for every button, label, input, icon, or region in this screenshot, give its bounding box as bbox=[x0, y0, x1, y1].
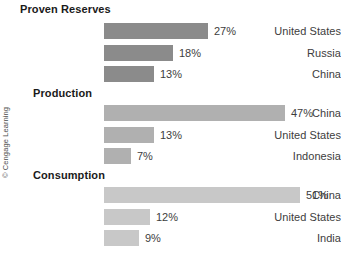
bar-wrap: 12% bbox=[104, 207, 178, 227]
bar-row-label: United States bbox=[241, 21, 341, 41]
bar-row: United States 13% bbox=[0, 125, 341, 145]
bar-row: China 13% bbox=[0, 64, 341, 84]
bar[interactable] bbox=[104, 105, 285, 121]
bar-wrap: 27% bbox=[104, 21, 236, 41]
bar-row-label: Russia bbox=[241, 43, 341, 63]
bar-wrap: 51% bbox=[104, 185, 328, 205]
bar[interactable] bbox=[104, 209, 150, 225]
bar-row-label: United States bbox=[241, 207, 341, 227]
bar-value-label: 27% bbox=[214, 23, 236, 39]
bar-row: China 47% bbox=[0, 103, 341, 123]
bar-wrap: 13% bbox=[104, 125, 182, 145]
bar[interactable] bbox=[104, 127, 154, 143]
bar-row-label: Indonesia bbox=[241, 146, 341, 166]
bar-value-label: 9% bbox=[145, 230, 161, 246]
bar-value-label: 13% bbox=[160, 66, 182, 82]
bar-value-label: 13% bbox=[160, 127, 182, 143]
bar-row: Russia 18% bbox=[0, 43, 341, 63]
bar-wrap: 18% bbox=[104, 43, 201, 63]
bar-row: China 51% bbox=[0, 185, 341, 205]
bar-row-label: United States bbox=[241, 125, 341, 145]
bar-wrap: 13% bbox=[104, 64, 182, 84]
bar-value-label: 18% bbox=[179, 45, 201, 61]
bar[interactable] bbox=[104, 23, 208, 39]
bar[interactable] bbox=[104, 187, 300, 203]
bar-value-label: 47% bbox=[291, 105, 313, 121]
bar-value-label: 51% bbox=[306, 187, 328, 203]
group-title-proven-reserves: Proven Reserves bbox=[20, 3, 111, 15]
group-title-production: Production bbox=[33, 87, 92, 99]
bar-wrap: 47% bbox=[104, 103, 313, 123]
bar[interactable] bbox=[104, 45, 173, 61]
coal-statistics-bar-chart: © Cengage Learning Proven Reserves Unite… bbox=[0, 0, 341, 253]
bar[interactable] bbox=[104, 66, 154, 82]
bar-row: United States 27% bbox=[0, 21, 341, 41]
bar[interactable] bbox=[104, 230, 139, 246]
group-title-consumption: Consumption bbox=[33, 169, 105, 181]
bar-value-label: 7% bbox=[137, 148, 153, 164]
bar-row: Indonesia 7% bbox=[0, 146, 341, 166]
bar-row-label: India bbox=[241, 228, 341, 248]
bar-row: India 9% bbox=[0, 228, 341, 248]
bar-value-label: 12% bbox=[156, 209, 178, 225]
bar-row-label: China bbox=[241, 64, 341, 84]
bar-wrap: 7% bbox=[104, 146, 153, 166]
bar-wrap: 9% bbox=[104, 228, 161, 248]
bar[interactable] bbox=[104, 148, 131, 164]
bar-row: United States 12% bbox=[0, 207, 341, 227]
